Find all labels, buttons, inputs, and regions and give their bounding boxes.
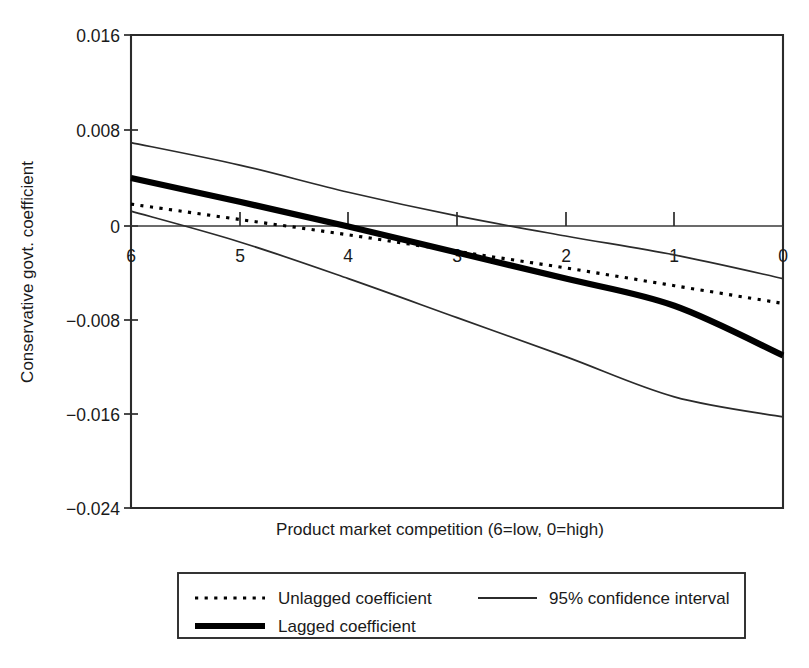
x-tick-label: 0 — [778, 246, 788, 266]
data-series-group — [131, 143, 783, 417]
x-tick-label: 2 — [561, 246, 571, 266]
y-axis-tick-labels: 0.016 0.008 0 −0.008 −0.016 −0.024 — [66, 26, 120, 519]
lagged-coefficient-line — [131, 178, 783, 355]
legend-item-label: Unlagged coefficient — [278, 589, 432, 608]
y-axis-title: Conservative govt. coefficient — [18, 161, 37, 383]
y-tick-label: 0.016 — [76, 26, 120, 46]
x-axis-tick-labels: 6 5 4 3 2 1 0 — [126, 246, 788, 266]
y-tick-label: 0 — [110, 217, 120, 237]
y-tick-label: −0.008 — [66, 311, 120, 331]
legend-item-label: Lagged coefficient — [278, 617, 416, 636]
x-tick-label: 5 — [235, 246, 245, 266]
y-tick-label: −0.016 — [66, 405, 120, 425]
confidence-interval-lower-line — [131, 211, 783, 417]
y-tick-label: −0.024 — [66, 499, 120, 519]
plot-frame — [131, 35, 783, 508]
legend-item-label: 95% confidence interval — [549, 589, 730, 608]
chart-canvas: Conservative govt. coefficient 0.016 0.0… — [0, 0, 809, 668]
x-tick-label: 6 — [126, 246, 136, 266]
y-tick-label: 0.008 — [76, 121, 120, 141]
x-tick-label: 4 — [343, 246, 353, 266]
x-axis-title: Product market competition (6=low, 0=hig… — [276, 520, 604, 539]
plot-frame-rect — [131, 35, 783, 508]
chart-figure: Conservative govt. coefficient 0.016 0.0… — [0, 0, 809, 668]
chart-legend: Unlagged coefficient 95% confidence inte… — [178, 573, 745, 638]
